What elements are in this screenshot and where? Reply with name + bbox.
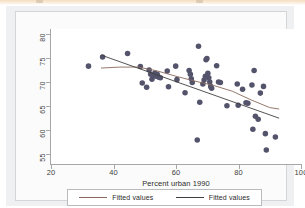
scatter-point [251, 68, 257, 74]
scatter-point [249, 82, 255, 88]
scatter-point [255, 116, 261, 122]
scatter-point [204, 56, 210, 62]
scatter-plot-svg [51, 29, 301, 164]
x-axis-title: Percent urban 1990 [50, 179, 302, 188]
y-tick-mark [46, 130, 50, 131]
scatter-point [125, 51, 131, 57]
y-tick-label: 75 [39, 57, 46, 77]
y-tick-label: 60 [39, 130, 46, 150]
legend-item-fitted-linear[interactable]: Fitted values [165, 194, 262, 201]
header-ink-mark-right [196, 0, 203, 3]
scatter-point [194, 137, 200, 143]
scatter-point [144, 85, 150, 91]
x-tick-label: 20 [38, 168, 64, 177]
scatter-point [240, 87, 246, 93]
y-tick-label: 80 [39, 33, 46, 53]
scatter-point [250, 127, 256, 133]
scatter-point [245, 100, 251, 106]
scatter-point [209, 86, 215, 92]
y-tick-mark [46, 106, 50, 107]
x-tick-label: 60 [163, 168, 189, 177]
scatter-point [197, 100, 203, 106]
legend-label-lowess: Fitted values [112, 194, 153, 201]
scatter-point [263, 131, 269, 137]
scatter-point [139, 80, 145, 86]
y-tick-mark [46, 154, 50, 155]
y-tick-mark [46, 82, 50, 83]
scatter-point [224, 103, 230, 109]
screenshot-root: 556065707580 20406080100 Percent urban 1… [0, 0, 305, 208]
graph-frame: 556065707580 20406080100 Percent urban 1… [15, 11, 287, 201]
scatter-point [258, 90, 264, 96]
legend-swatch-lowess [79, 197, 107, 198]
scatter-point [234, 81, 240, 87]
y-axis-line [50, 29, 51, 165]
stata-graph-region: 556065707580 20406080100 Percent urban 1… [6, 6, 294, 206]
legend-item-fitted-lowess[interactable]: Fitted values [68, 194, 165, 201]
scatter-point [173, 63, 179, 69]
page-header-strip [0, 0, 305, 5]
scatter-point [182, 90, 188, 96]
scatter-point [100, 54, 106, 60]
y-tick-mark [46, 34, 50, 35]
scatter-point [273, 134, 279, 140]
scatter-point [214, 63, 220, 69]
scatter-point [264, 147, 270, 153]
header-ink-mark-left [36, 0, 43, 3]
x-tick-label: 100 [288, 168, 305, 177]
scatter-point [86, 63, 92, 69]
scatter-point [166, 84, 172, 90]
scatter-point [196, 44, 202, 50]
scatter-point [261, 84, 267, 90]
y-tick-label: 70 [39, 82, 46, 102]
x-tick-label: 40 [101, 168, 127, 177]
x-tick-label: 80 [226, 168, 252, 177]
legend-swatch-linear [176, 197, 204, 198]
legend-label-linear: Fitted values [209, 194, 250, 201]
chart-legend: Fitted values Fitted values [67, 189, 262, 206]
scatter-point [218, 80, 224, 86]
y-tick-mark [46, 58, 50, 59]
y-tick-label: 65 [39, 106, 46, 126]
plot-area [51, 29, 301, 164]
